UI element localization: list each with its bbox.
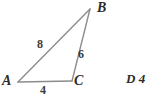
segment-ac xyxy=(18,81,72,82)
segment-bc xyxy=(72,9,90,81)
vertex-label-c: C xyxy=(74,74,83,88)
triangle-figure: A B C 8 6 4 D 4 xyxy=(0,0,149,97)
segment-ab xyxy=(18,9,90,82)
side-length-ab: 8 xyxy=(37,38,43,50)
vertex-label-b: B xyxy=(97,1,106,15)
side-length-bc: 6 xyxy=(78,48,84,60)
side-length-ac: 4 xyxy=(40,84,46,96)
vertex-label-a: A xyxy=(2,74,11,88)
answer-choice-d[interactable]: D 4 xyxy=(126,72,145,85)
